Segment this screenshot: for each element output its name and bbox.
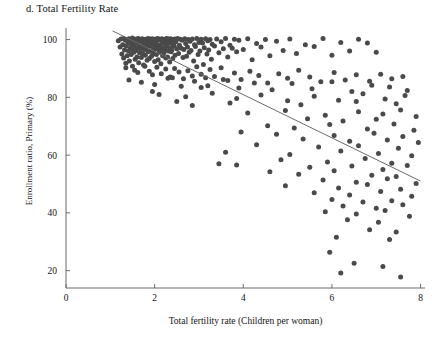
- data-point: [200, 41, 205, 46]
- data-point: [325, 160, 330, 165]
- scatter-points-group: [116, 36, 421, 280]
- data-point: [332, 168, 337, 173]
- data-point: [343, 78, 348, 83]
- data-point: [383, 97, 388, 102]
- data-point: [411, 128, 416, 133]
- data-point: [212, 43, 217, 48]
- data-point: [209, 57, 214, 62]
- data-point: [400, 202, 405, 207]
- data-point: [232, 71, 237, 76]
- data-point: [387, 84, 392, 89]
- y-tick-label: 80: [48, 93, 58, 103]
- data-point: [172, 66, 177, 71]
- data-point: [347, 192, 352, 197]
- data-point: [199, 85, 204, 90]
- data-point: [307, 75, 312, 80]
- data-point: [176, 51, 181, 56]
- y-tick-label: 100: [43, 35, 58, 45]
- scatter-plot: 02468 20406080100: [0, 0, 434, 337]
- data-point: [360, 199, 365, 204]
- data-point: [327, 250, 332, 255]
- data-point: [369, 83, 374, 88]
- data-point: [394, 101, 399, 106]
- data-point: [405, 163, 410, 168]
- data-point: [307, 165, 312, 170]
- data-point: [241, 47, 246, 52]
- data-point: [234, 49, 239, 54]
- data-point: [259, 45, 264, 50]
- data-point: [336, 98, 341, 103]
- data-point: [256, 73, 261, 78]
- data-point: [338, 270, 343, 275]
- data-point: [303, 42, 308, 47]
- data-point: [336, 186, 341, 191]
- data-point: [354, 212, 359, 217]
- data-point: [363, 156, 368, 161]
- data-point: [354, 180, 359, 185]
- data-point: [356, 37, 361, 42]
- data-point: [126, 78, 131, 83]
- data-point: [219, 39, 224, 44]
- data-point: [236, 86, 241, 91]
- data-point: [183, 94, 188, 99]
- y-tick-label: 40: [48, 208, 58, 218]
- data-point: [139, 80, 144, 85]
- data-point: [254, 142, 259, 147]
- data-point: [389, 161, 394, 166]
- data-point: [380, 264, 385, 269]
- data-point: [259, 93, 264, 98]
- data-point: [274, 132, 279, 137]
- figure-container: d. Total Fertility Rate Enrollment ratio…: [0, 0, 434, 337]
- data-point: [252, 80, 257, 85]
- data-point: [414, 114, 419, 119]
- data-point: [223, 36, 228, 41]
- data-point: [367, 227, 372, 232]
- data-point: [206, 47, 211, 52]
- x-tick-label: 4: [241, 293, 246, 303]
- data-point: [409, 153, 414, 158]
- data-point: [201, 62, 206, 67]
- y-tick-labels: 20406080100: [43, 35, 58, 276]
- data-point: [216, 50, 221, 55]
- data-point: [278, 157, 283, 162]
- data-point: [150, 89, 155, 94]
- data-point: [316, 145, 321, 150]
- data-point: [323, 209, 328, 214]
- data-point: [234, 96, 239, 101]
- data-point: [400, 134, 405, 139]
- data-point: [285, 76, 290, 81]
- data-point: [274, 39, 279, 44]
- data-point: [298, 102, 303, 107]
- data-point: [365, 41, 370, 46]
- data-point: [214, 36, 219, 41]
- data-point: [123, 65, 128, 70]
- data-point: [227, 101, 232, 106]
- data-point: [188, 48, 193, 53]
- data-point: [354, 72, 359, 77]
- data-point: [301, 136, 306, 141]
- data-point: [216, 161, 221, 166]
- x-tick-label: 2: [152, 293, 157, 303]
- data-point: [394, 229, 399, 234]
- data-point: [383, 208, 388, 213]
- data-point: [265, 123, 270, 128]
- data-point: [142, 64, 147, 69]
- data-point: [294, 51, 299, 56]
- data-point: [309, 86, 314, 91]
- data-point: [389, 198, 394, 203]
- data-point: [179, 84, 184, 89]
- y-tick-label: 20: [48, 266, 58, 276]
- data-point: [283, 183, 288, 188]
- data-point: [285, 98, 290, 103]
- data-point: [347, 49, 352, 54]
- data-point: [276, 71, 281, 76]
- data-point: [374, 206, 379, 211]
- data-point: [174, 99, 179, 104]
- data-point: [152, 82, 157, 87]
- data-point: [376, 151, 381, 156]
- data-point: [407, 214, 412, 219]
- data-point: [372, 131, 377, 136]
- x-tick-label: 8: [418, 293, 423, 303]
- data-point: [205, 83, 210, 88]
- data-point: [135, 70, 140, 75]
